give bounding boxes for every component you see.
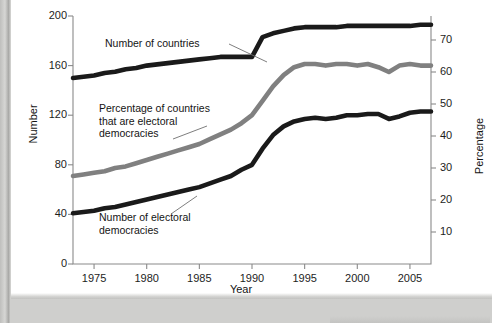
y-axis-right-tick-30: 30 <box>440 162 474 173</box>
y-axis-left-tick-160: 160 <box>27 60 67 71</box>
y-axis-left-title: Number <box>27 94 39 154</box>
y-axis-right-tick-10: 10 <box>440 226 474 237</box>
y-axis-right-title: Percentage <box>473 114 485 178</box>
y-axis-right-tick-40: 40 <box>440 130 474 141</box>
x-axis-tick-1980: 1980 <box>125 273 169 284</box>
x-axis-title: Year <box>201 283 281 295</box>
annotation-number-of-electoral-democracies: Number of electoral democracies <box>99 211 191 236</box>
page-gutter-shadow <box>0 0 11 323</box>
series-line-number-of-countries <box>73 25 431 78</box>
x-axis-tick-1985: 1985 <box>177 273 221 284</box>
y-axis-right-tick-70: 70 <box>440 34 474 45</box>
y-axis-left-tick-80: 80 <box>27 159 67 170</box>
y-axis-right-tick-50: 50 <box>440 98 474 109</box>
y-axis-left-tick-0: 0 <box>27 258 67 269</box>
annotation-percentage-of-countries: Percentage of countries that are elector… <box>99 102 210 140</box>
x-axis-tick-2005: 2005 <box>388 273 432 284</box>
y-axis-left-tick-200: 200 <box>27 10 67 21</box>
x-axis-tick-1975: 1975 <box>72 273 116 284</box>
x-axis-tick-2000: 2000 <box>335 273 379 284</box>
bleed-text-fragment <box>330 316 490 323</box>
chart-plot-svg <box>11 0 492 293</box>
y-axis-right-tick-20: 20 <box>440 194 474 205</box>
leader-line-number-of-countries <box>229 44 267 62</box>
y-axis-right-tick-60: 60 <box>440 66 474 77</box>
y-axis-left-tick-120: 120 <box>27 109 67 120</box>
y-axis-left-tick-40: 40 <box>27 208 67 219</box>
line-chart: Number Percentage Year Number of countri… <box>11 0 492 293</box>
x-axis-tick-1990: 1990 <box>230 273 274 284</box>
annotation-number-of-countries: Number of countries <box>105 37 200 50</box>
x-axis-tick-1995: 1995 <box>283 273 327 284</box>
